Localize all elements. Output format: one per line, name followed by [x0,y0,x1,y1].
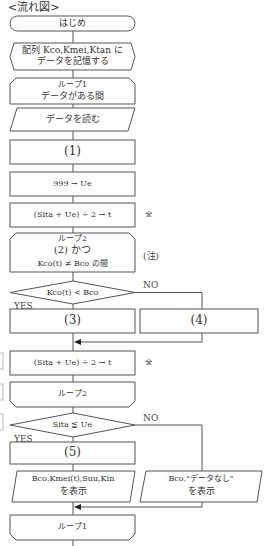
out-none-label-2: を表示 [140,486,262,496]
cond2-no-label: NO [143,413,158,423]
loop2-start-label-1: ループ2 [10,234,135,243]
no-branch1 [135,293,202,310]
asterisk-mark: ※ [145,209,153,219]
cond1-yes-label: YES [14,301,33,311]
loop1-start-label-1: ループ1 [10,80,135,89]
merge-arrow-icon [74,504,81,510]
merge-arrow-icon [74,339,81,345]
calc2-label: (Sita + Ue) ÷ 2 → t [10,358,135,367]
calc1-label: (Sita + Ue) ÷ 2 → t [10,210,135,219]
out-found-label-1: Bco,Kmei(t),Suu,Kin [12,474,134,483]
store-label-1: 配列 Kco,Kmei,Ktan に [10,45,135,55]
loop1-start-label-2: データがある間 [10,91,135,101]
merge2 [79,502,202,507]
store-label-2: データを記憶する [10,56,135,66]
blank5-label: (5) [10,446,135,460]
loop1-end-label: ループ1 [10,522,135,531]
blank4-label: (4) [140,314,258,328]
cond1-no-label: NO [143,280,158,290]
out-none-label-1: Bco,"データなし" [140,474,262,483]
out-found-label-2: を表示 [12,486,134,496]
start-label: はじめ [10,18,135,28]
no-branch2 [135,425,202,471]
loop2-start-label-3: Kco(t) ≠ Bco の間 [10,259,135,268]
asterisk-mark-2: ※ [145,357,153,367]
cond2-label: Sita ≦ Ue [10,420,135,429]
flowchart-title: <流れ図> [8,2,59,15]
cond1-label: Kco(t) < Bco [10,288,135,297]
blank3-label: (3) [10,314,135,328]
merge1 [79,333,202,342]
loop2-start-label-2: (2) かつ [10,244,135,256]
loop2-end-label: ループ2 [10,389,135,398]
cond2-yes-label: YES [14,434,33,444]
read-label: データを読む [10,114,135,124]
init-label: 999 → Ue [10,179,135,188]
blank1-label: (1) [10,145,135,159]
note-mark: (注) [143,249,159,262]
